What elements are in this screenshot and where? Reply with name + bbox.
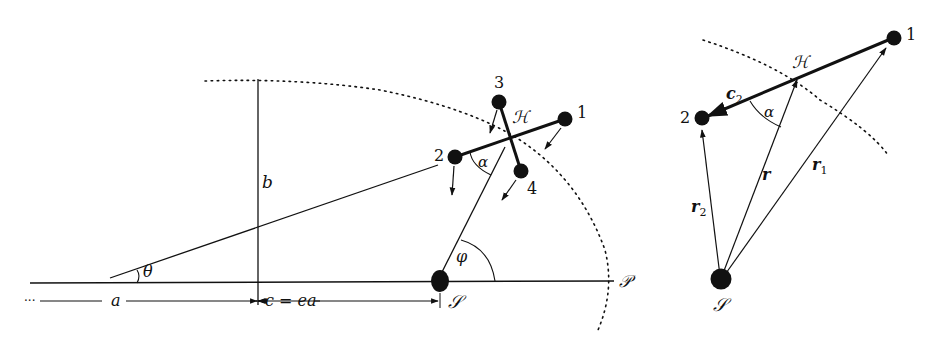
label-r1: r1 [812, 155, 827, 177]
right-diagram: α 1 2 ℋ c2 r r1 r2 𝒮 [680, 25, 916, 315]
point-3 [492, 95, 507, 110]
sun-S-right [711, 269, 732, 290]
label-c-equals-ea: c = ea [265, 291, 317, 310]
vector-r2 [702, 130, 720, 276]
label-c2: c2 [726, 84, 743, 106]
velocity-arrow-4 [502, 180, 516, 200]
theta-angle-arc [137, 270, 139, 283]
major-axis-line [30, 281, 614, 283]
label-r: r [762, 165, 772, 184]
point-4 [514, 164, 529, 179]
left-diagram: b θ φ α 1 2 3 4 ℋ 𝒮 𝒫 [24, 73, 636, 330]
label-alpha-left: α [478, 153, 488, 171]
label-H-left: ℋ [512, 107, 532, 127]
sun-focus-S [431, 270, 449, 292]
point-2 [448, 150, 463, 165]
label-b: b [262, 172, 273, 192]
label-P: 𝒫 [619, 271, 636, 291]
label-theta: θ [143, 262, 153, 281]
orbit-geometry-figure: b θ φ α 1 2 3 4 ℋ 𝒮 𝒫 [0, 0, 935, 347]
theta-line [110, 165, 438, 278]
vector-r1 [724, 48, 886, 276]
velocity-arrow-1 [545, 128, 561, 149]
vector-r [722, 80, 797, 276]
label-phi-visible: φ [456, 247, 468, 266]
label-a: a [111, 291, 121, 310]
label-dots: ··· [24, 294, 35, 308]
label-point-1: 1 [577, 103, 587, 122]
point-1 [558, 112, 573, 127]
label-point-2: 2 [434, 146, 444, 165]
point-1-right [887, 31, 902, 46]
point-2-right [695, 111, 710, 126]
label-point-4: 4 [527, 179, 537, 198]
label-alpha-right: α [764, 103, 774, 121]
label-point-2-right: 2 [680, 108, 690, 127]
label-S-left: 𝒮 [448, 291, 467, 312]
label-S-right: 𝒮 [713, 294, 732, 315]
label-point-1-right: 1 [906, 25, 916, 44]
velocity-arrow-3 [490, 110, 497, 133]
label-H-right: ℋ [792, 52, 812, 72]
label-r2: r2 [691, 197, 706, 219]
radius-line [440, 147, 505, 276]
velocity-arrow-2 [452, 166, 454, 195]
label-point-3: 3 [494, 73, 504, 92]
